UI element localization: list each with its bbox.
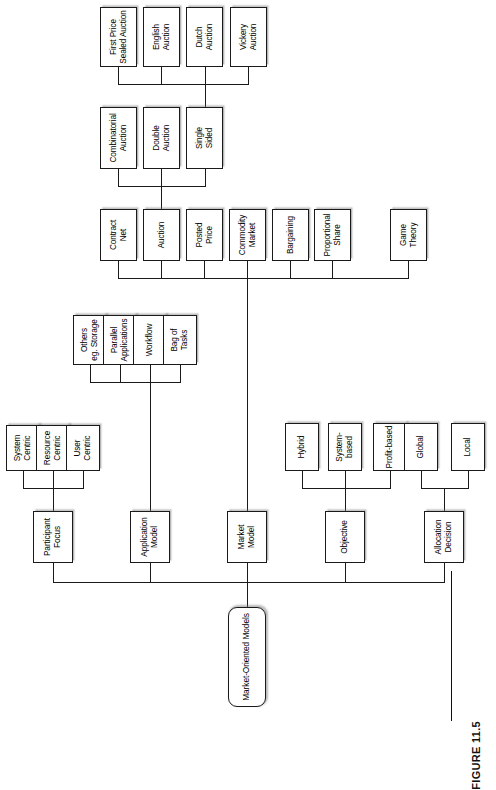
edge-auction-out	[161, 187, 162, 209]
figure-caption: FIGURE 11.5	[470, 721, 482, 790]
node-first-price-sealed-auction[interactable]: First Price Sealed Auction	[100, 7, 137, 67]
node-others-eg-storage[interactable]: Others eg. Storage	[73, 315, 107, 365]
edge-market-model-out	[247, 279, 248, 511]
node-double-auction[interactable]: Double Auction	[143, 107, 180, 169]
node-root[interactable]: Market-Oriented Models	[228, 607, 266, 707]
edge-spine-level1	[53, 582, 444, 583]
edge-to-participant-focus	[53, 563, 54, 583]
node-system-centric[interactable]: System Centric	[6, 425, 40, 471]
caption-divider	[451, 571, 452, 721]
node-bag-of-tasks[interactable]: Bag of Tasks	[163, 315, 197, 365]
edge-to-contract-net	[118, 261, 119, 279]
edge-to-workflow	[150, 365, 151, 383]
node-workflow[interactable]: Workflow	[133, 315, 167, 365]
edge-objective-out	[345, 489, 346, 511]
node-posted-price[interactable]: Posted Price	[186, 209, 223, 261]
node-bargaining[interactable]: Bargaining	[272, 209, 309, 261]
edge-to-allocation-decision	[444, 563, 445, 583]
node-combinatorial-auction[interactable]: Combinatorial Auction	[100, 107, 137, 169]
edge-to-combinatorial-auction	[118, 169, 119, 187]
edge-to-system-centric	[23, 471, 24, 489]
edge-to-others-storage	[90, 365, 91, 383]
node-dutch-auction[interactable]: Dutch Auction	[186, 7, 223, 67]
node-auction[interactable]: Auction	[143, 209, 180, 261]
node-application-model[interactable]: Application Model	[130, 511, 170, 563]
node-profit-based[interactable]: Profit-based	[373, 423, 407, 471]
node-contract-net[interactable]: Contract Net	[100, 209, 137, 261]
edge-to-resource-centric	[53, 471, 54, 489]
edge-to-posted-price	[204, 261, 205, 279]
edge-root-stub	[247, 583, 248, 607]
edge-to-auction	[161, 261, 162, 279]
node-system-based[interactable]: System-based	[328, 423, 362, 471]
edge-to-game-theory	[408, 261, 409, 279]
edge-participant-focus-out	[53, 489, 54, 511]
node-allocation-decision[interactable]: Allocation Decision	[424, 511, 464, 563]
node-participant-focus[interactable]: Participant Focus	[33, 511, 73, 563]
node-market-model[interactable]: Market Model	[227, 511, 267, 563]
edge-application-model-out	[150, 383, 151, 511]
node-proportional-share[interactable]: Proportional Share	[314, 209, 351, 261]
edge-to-single-sided	[205, 169, 206, 187]
edge-to-bag-of-tasks	[180, 365, 181, 383]
edge-to-english-auction	[161, 67, 162, 85]
node-resource-centric[interactable]: Resource Centric	[36, 425, 70, 471]
edge-to-user-centric	[83, 471, 84, 489]
edge-to-commodity-market	[247, 261, 248, 279]
node-vickery-auction[interactable]: Vickery Auction	[230, 7, 267, 67]
edge-allocation-decision-out	[444, 489, 445, 511]
edge-to-first-price-sealed-auction	[118, 67, 119, 85]
node-commodity-market[interactable]: Commodity Market	[229, 209, 266, 261]
node-parallel-applications[interactable]: Parallel Applications	[103, 315, 137, 365]
edge-to-dutch-auction	[205, 67, 206, 85]
edge-to-vickery-auction	[248, 67, 249, 85]
node-global[interactable]: Global	[404, 423, 438, 471]
node-game-theory[interactable]: Game Theory	[390, 209, 427, 261]
edge-to-system-based	[345, 471, 346, 489]
edge-to-application-model	[150, 563, 151, 583]
edge-to-local	[468, 471, 469, 489]
edge-to-profit-based	[390, 471, 391, 489]
node-local[interactable]: Local	[451, 423, 485, 471]
edge-to-hybrid	[302, 471, 303, 489]
edge-to-double-auction	[161, 169, 162, 187]
edge-spine-single-sided	[118, 84, 248, 85]
edge-to-market-model	[247, 563, 248, 583]
edge-to-bargaining	[290, 261, 291, 279]
edge-to-proportional-share	[332, 261, 333, 279]
node-objective[interactable]: Objective	[325, 511, 365, 563]
node-english-auction[interactable]: English Auction	[143, 7, 180, 67]
edge-spine-allocation-decision	[421, 488, 468, 489]
edge-to-global	[421, 471, 422, 489]
edge-single-sided-out	[205, 85, 206, 107]
node-hybrid[interactable]: Hybrid	[285, 423, 319, 471]
edge-to-objective	[345, 563, 346, 583]
node-single-sided[interactable]: Single Sided	[186, 107, 223, 169]
node-user-centric[interactable]: User Centric	[66, 425, 100, 471]
edge-to-parallel-applications	[120, 365, 121, 383]
edge-spine-application-model	[90, 382, 180, 383]
